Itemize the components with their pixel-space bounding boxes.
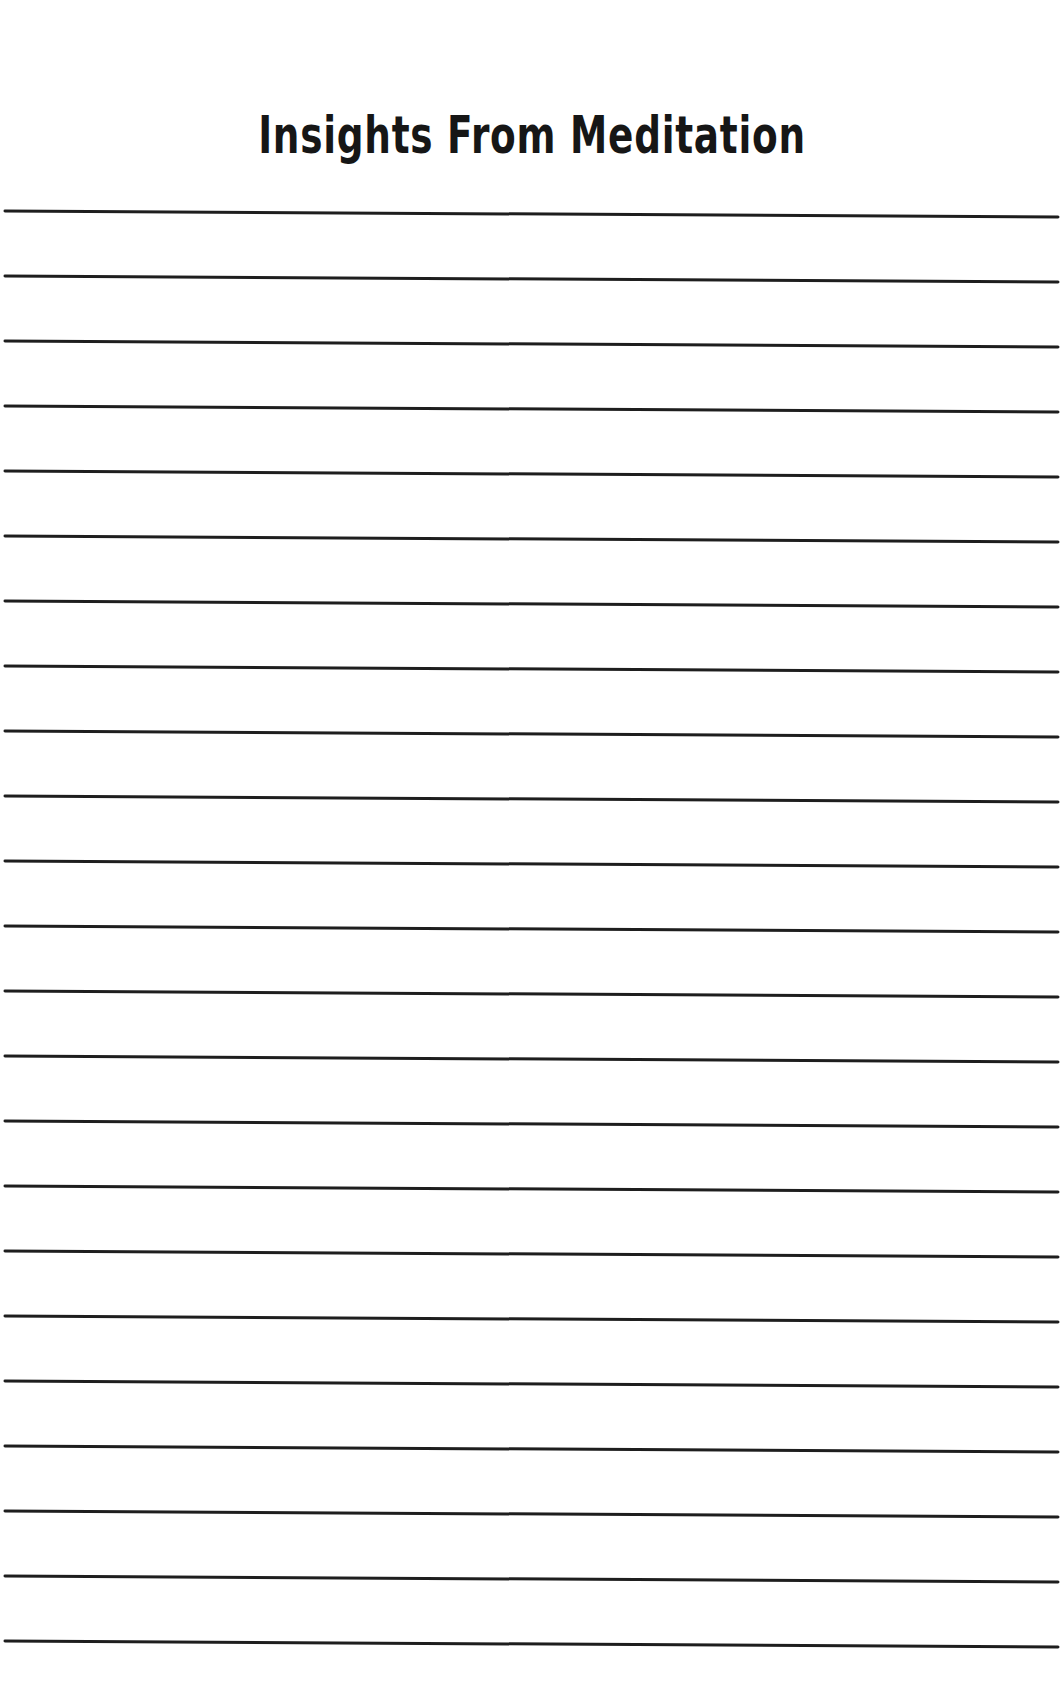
writing-line [5, 1511, 1058, 1517]
journal-page: Insights From Meditation [0, 0, 1064, 1691]
writing-line [5, 1641, 1058, 1647]
writing-line [5, 1186, 1058, 1192]
writing-line [5, 1446, 1058, 1452]
writing-line [5, 1056, 1058, 1062]
writing-line [5, 211, 1058, 217]
writing-line [5, 1381, 1058, 1387]
writing-line [5, 601, 1058, 607]
writing-line [5, 991, 1058, 997]
writing-line [5, 861, 1058, 867]
writing-line [5, 926, 1058, 932]
writing-line [5, 1576, 1058, 1582]
writing-line [5, 796, 1058, 802]
writing-line [5, 276, 1058, 282]
writing-line [5, 536, 1058, 542]
writing-line [5, 471, 1058, 477]
writing-line [5, 341, 1058, 347]
writing-line [5, 1316, 1058, 1322]
writing-line [5, 406, 1058, 412]
writing-line [5, 666, 1058, 672]
ruled-lines [0, 0, 1064, 1691]
writing-line [5, 1121, 1058, 1127]
writing-line [5, 1251, 1058, 1257]
writing-line [5, 731, 1058, 737]
